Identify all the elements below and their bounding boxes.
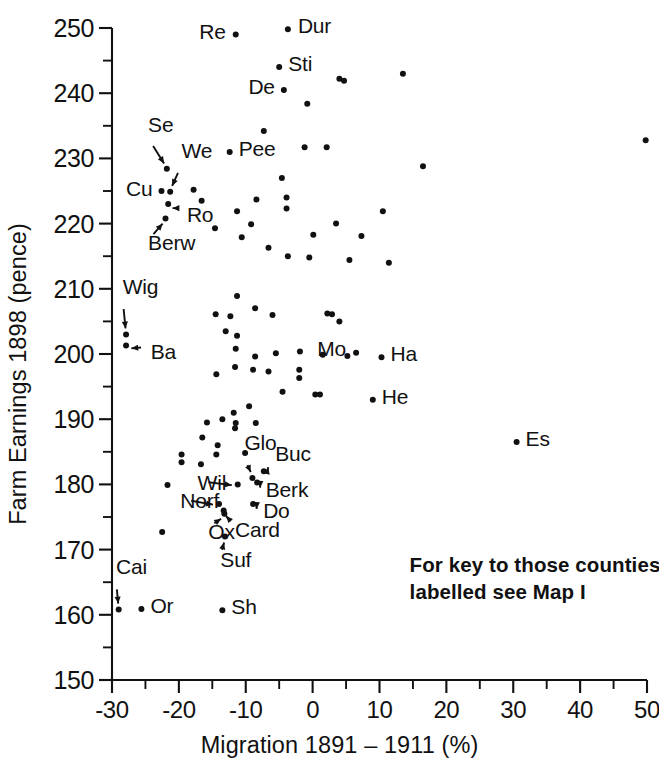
data-point-we (167, 189, 173, 195)
y-axis-tick-label: 150 (53, 666, 94, 694)
y-axis-tick-label: 220 (53, 210, 94, 238)
point-label-pee: Pee (239, 137, 276, 160)
data-point-card (221, 507, 227, 513)
data-point (213, 311, 219, 317)
data-point-wil (235, 481, 241, 487)
point-label-mo: Mo (317, 337, 346, 360)
data-point-ha (379, 354, 385, 360)
data-point (380, 208, 386, 214)
data-point (270, 312, 276, 318)
data-point-he (370, 397, 376, 403)
point-label-ba: Ba (151, 340, 177, 363)
data-point (265, 369, 271, 375)
data-point (215, 442, 221, 448)
data-point (165, 482, 171, 488)
point-label-ox: Ox (208, 520, 235, 543)
data-point-or (138, 606, 144, 612)
point-label-card: Card (235, 518, 280, 541)
key-note-line-2: labelled see Map I (410, 580, 586, 603)
data-point (232, 425, 238, 431)
x-axis-tick-label: 20 (433, 696, 459, 723)
point-label-ha: Ha (391, 342, 418, 365)
y-axis-tick-label: 190 (53, 405, 94, 433)
data-point-suf (222, 534, 228, 540)
scatter-plot-figure: 150160170180190200210220230240250-30-20-… (0, 0, 659, 767)
x-axis-tick-label: 30 (500, 696, 526, 723)
data-point (310, 232, 316, 238)
x-axis-tick-label: 10 (367, 696, 393, 723)
data-point-cai (116, 607, 122, 613)
y-axis-tick-label: 200 (53, 340, 94, 368)
data-point (386, 260, 392, 266)
x-axis-tick-label: 0 (306, 696, 319, 723)
data-point-pee (227, 149, 233, 155)
plot-canvas: 150160170180190200210220230240250-30-20-… (0, 0, 659, 767)
data-point (252, 354, 258, 360)
data-point (199, 434, 205, 440)
data-point (358, 233, 364, 239)
data-point (302, 144, 308, 150)
data-point (296, 375, 302, 381)
data-point (219, 416, 225, 422)
data-point (284, 195, 290, 201)
data-point-ba (123, 343, 129, 349)
x-axis-tick-label: -30 (95, 696, 129, 723)
data-point-sh (219, 607, 225, 613)
data-point (333, 221, 339, 227)
data-point (233, 420, 239, 426)
point-label-re: Re (199, 20, 225, 43)
point-label-buc: Buc (275, 442, 311, 465)
data-point (336, 76, 342, 82)
y-axis-tick-label: 160 (53, 601, 94, 629)
data-point (346, 257, 352, 263)
data-point (212, 225, 218, 231)
data-point (329, 311, 335, 317)
data-point-berw (163, 215, 169, 221)
data-point (285, 253, 291, 259)
x-axis-tick-label: -20 (162, 696, 196, 723)
data-point (324, 144, 330, 150)
data-point (306, 255, 312, 261)
data-point (420, 163, 426, 169)
data-point (223, 328, 229, 334)
data-point (265, 245, 271, 251)
point-label-de: De (248, 75, 274, 98)
data-point (234, 333, 240, 339)
key-note-line-1: For key to those counties (410, 553, 659, 576)
leader-ro-head (173, 205, 180, 211)
point-label-berw: Berw (148, 231, 196, 254)
data-point (227, 313, 233, 319)
data-point (234, 208, 240, 214)
point-label-cai: Cai (116, 555, 147, 578)
y-axis-title: Farm Earnings 1898 (pence) (5, 223, 31, 525)
data-point (213, 451, 219, 457)
point-label-dur: Dur (298, 14, 331, 37)
data-point (250, 367, 256, 373)
y-axis-tick-label: 210 (53, 275, 94, 303)
point-label-berk: Berk (266, 478, 309, 501)
data-point-ro (165, 201, 171, 207)
point-label-suf: Suf (220, 548, 251, 571)
x-axis-tick-label: 50 (634, 696, 659, 723)
data-point (198, 461, 204, 467)
data-point (252, 305, 258, 311)
data-point-glo (249, 475, 255, 481)
data-point (261, 128, 267, 134)
data-point (179, 459, 185, 465)
point-label-se: Se (148, 113, 173, 136)
data-point (248, 221, 254, 227)
data-point-sti (276, 64, 282, 70)
data-point (279, 175, 285, 181)
data-point-re (233, 32, 239, 38)
data-point (273, 350, 279, 356)
data-point (643, 137, 649, 143)
data-point (317, 391, 323, 397)
data-point (204, 419, 210, 425)
data-point (239, 234, 245, 240)
point-label-glo: Glo (244, 431, 276, 454)
y-axis-tick-label: 180 (53, 470, 94, 498)
data-point (336, 318, 342, 324)
y-axis-tick-label: 250 (53, 14, 94, 42)
point-label-or: Or (150, 594, 173, 617)
data-point (159, 529, 165, 535)
